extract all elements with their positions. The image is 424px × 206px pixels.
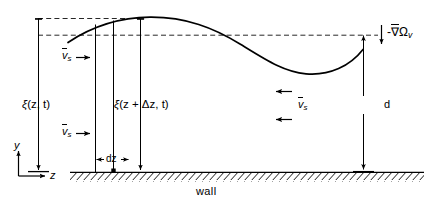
- reference-lines-group: [38, 19, 378, 36]
- grad-omega-subscript: v: [408, 30, 412, 40]
- v-s-right-symbol: v: [298, 99, 304, 110]
- grad-omega-label: -∇Ωv: [387, 26, 412, 40]
- v-s-upper-left-subscript: s: [68, 54, 72, 63]
- wave-schematic-figure: ξ(z, t) ξ(z + Δz, t) vs vs vs dz d wall …: [0, 0, 424, 206]
- grad-omega-symbol: Ω: [399, 25, 408, 39]
- dz-label-text: dz: [106, 153, 117, 164]
- wave-surface-curve: [68, 17, 363, 74]
- v-s-lower-left-subscript: s: [68, 130, 72, 139]
- v-s-upper-left-label: vs: [62, 50, 71, 63]
- xi-z-t-args: (z, t): [27, 98, 50, 110]
- v-s-right-label: vs: [298, 99, 307, 112]
- wall-hatching: [70, 173, 424, 182]
- v-s-upper-left-symbol: v: [62, 50, 68, 61]
- v-s-lower-left-label: vs: [62, 126, 71, 139]
- dz-right-edge-foot: [111, 169, 115, 173]
- dz-label: dz: [106, 154, 117, 164]
- y-axis-label: y: [14, 140, 20, 151]
- xi-z-t-label: ξ(z, t): [22, 99, 50, 111]
- v-s-lower-left-symbol: v: [62, 126, 68, 137]
- vertical-measure-lines-group: [28, 19, 374, 173]
- v-s-right-subscript: s: [304, 103, 308, 112]
- z-axis-label: z: [50, 170, 56, 181]
- wall-label-text: wall: [196, 185, 217, 197]
- nabla-icon: ∇: [391, 26, 399, 38]
- figure-drawing-canvas: [0, 0, 424, 206]
- wall-label: wall: [196, 186, 217, 197]
- d-label-text: d: [384, 98, 390, 110]
- xi-z-dz-t-label: ξ(z + Δz, t): [114, 99, 169, 111]
- velocity-arrows-group: [76, 58, 292, 134]
- d-label: d: [384, 99, 390, 110]
- z-axis-label-text: z: [50, 169, 56, 181]
- wall-group: [70, 172, 424, 181]
- xi-z-dz-t-args: (z + Δz, t): [119, 98, 169, 110]
- y-axis-label-text: y: [14, 139, 20, 151]
